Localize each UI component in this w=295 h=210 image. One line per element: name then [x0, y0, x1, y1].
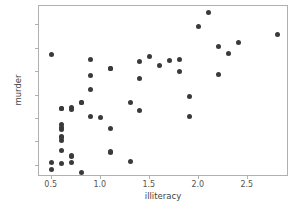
x-tick-mark [247, 176, 248, 179]
data-point [69, 160, 74, 165]
y-tick-mark [35, 24, 38, 25]
data-point [137, 76, 142, 81]
data-point [157, 63, 162, 68]
x-tick-mark [51, 176, 52, 179]
data-point [69, 105, 74, 110]
y-tick-mark [35, 141, 38, 142]
data-point [98, 115, 103, 120]
data-point [79, 100, 84, 105]
y-tick-mark [35, 71, 38, 72]
x-tick-label: 0.5 [44, 180, 57, 189]
x-tick-label: 2.0 [191, 180, 204, 189]
data-point [49, 52, 54, 57]
data-point [226, 51, 231, 56]
data-point [206, 10, 211, 15]
plot-data-area [39, 6, 287, 175]
y-tick-mark [35, 95, 38, 96]
data-point [177, 69, 182, 74]
data-point [216, 44, 221, 49]
x-tick-label: 1.5 [142, 180, 155, 189]
x-tick-mark [198, 176, 199, 179]
data-point [128, 100, 133, 105]
data-point [59, 161, 64, 166]
data-point [88, 57, 93, 62]
x-tick-mark [149, 176, 150, 179]
data-point [196, 24, 201, 29]
data-point [108, 126, 113, 131]
scatter-plot-figure: illiteracy murder 0.51.01.52.02.52468101… [0, 0, 295, 210]
x-tick-mark [100, 176, 101, 179]
data-point [88, 114, 93, 119]
data-point [128, 159, 133, 164]
data-point [108, 66, 113, 71]
data-point [69, 153, 74, 158]
data-point [79, 170, 84, 175]
data-point [88, 87, 93, 92]
data-point [236, 40, 241, 45]
data-point [88, 73, 93, 78]
data-point [59, 148, 64, 153]
data-point [216, 72, 221, 77]
data-point [275, 32, 280, 37]
data-point [49, 160, 54, 165]
y-tick-mark [35, 165, 38, 166]
data-point [167, 58, 172, 63]
data-point [177, 57, 182, 62]
y-tick-mark [35, 118, 38, 119]
plot-axes-frame [38, 5, 288, 176]
data-point [59, 106, 64, 111]
data-point [137, 59, 142, 64]
data-point [147, 54, 152, 59]
data-point [59, 127, 64, 132]
data-point [187, 114, 192, 119]
x-axis-title: illiteracy [145, 191, 181, 201]
x-tick-label: 1.0 [93, 180, 106, 189]
x-tick-label: 2.5 [240, 180, 253, 189]
data-point [187, 94, 192, 99]
data-point [137, 108, 142, 113]
y-tick-mark [35, 48, 38, 49]
y-axis-title: murder [13, 74, 23, 105]
data-point [49, 167, 54, 172]
